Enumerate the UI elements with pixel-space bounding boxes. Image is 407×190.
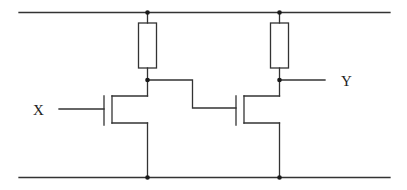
stage-2 xyxy=(236,13,325,178)
node-ground-1 xyxy=(145,175,150,180)
resistor-r2 xyxy=(271,23,289,68)
node-supply-1 xyxy=(145,10,150,15)
output-label-y: Y xyxy=(341,73,352,89)
node-ground-2 xyxy=(277,175,282,180)
stage-1 xyxy=(59,13,236,178)
node-drain-2 xyxy=(277,78,282,83)
resistor-r1 xyxy=(139,23,157,68)
interstage-wire xyxy=(148,80,237,108)
circuit-diagram: X Y xyxy=(0,0,407,190)
input-label-x: X xyxy=(33,102,44,118)
node-supply-2 xyxy=(277,10,282,15)
node-drain-1 xyxy=(145,78,150,83)
